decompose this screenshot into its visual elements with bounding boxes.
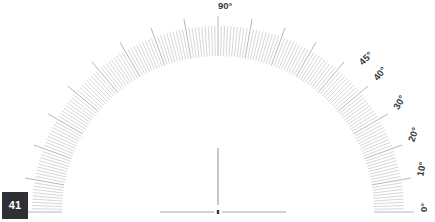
minor-tick <box>32 202 62 204</box>
minor-tick <box>96 72 116 95</box>
minor-tick <box>339 95 362 114</box>
minor-tick <box>78 90 101 110</box>
minor-tick <box>346 105 371 122</box>
major-tick <box>25 178 64 185</box>
minor-tick <box>330 83 352 104</box>
minor-tick <box>101 67 120 90</box>
minor-tick <box>326 78 347 100</box>
minor-tick <box>276 40 287 68</box>
minor-tick <box>36 173 65 179</box>
minor-tick <box>89 78 110 100</box>
minor-tick <box>312 63 330 87</box>
minor-tick <box>332 85 354 105</box>
minor-tick <box>49 133 76 146</box>
minor-tick <box>305 58 322 83</box>
minor-tick <box>80 88 102 108</box>
major-tick <box>92 62 118 93</box>
minor-tick <box>324 76 344 98</box>
minor-tick <box>374 199 404 201</box>
minor-tick <box>38 167 67 174</box>
minor-tick <box>136 45 149 72</box>
major-tick <box>184 19 191 58</box>
minor-tick <box>33 196 63 199</box>
minor-tick <box>226 26 228 56</box>
minor-tick <box>248 29 254 58</box>
minor-tick <box>344 103 368 121</box>
minor-tick <box>361 136 388 148</box>
minor-tick <box>322 74 342 96</box>
major-tick <box>34 145 72 159</box>
minor-tick <box>64 108 89 125</box>
radial-tick-scale-svg: 0°10°20°30°40°45°90° <box>0 0 435 222</box>
minor-tick <box>320 72 340 95</box>
minor-tick <box>69 100 93 118</box>
minor-tick <box>358 130 385 143</box>
minor-tick <box>73 95 96 114</box>
degree-label: 10° <box>414 161 427 177</box>
major-tick <box>365 145 403 159</box>
minor-tick <box>250 30 256 59</box>
degree-label: 40° <box>371 64 389 82</box>
degree-label: 45° <box>357 49 375 67</box>
minor-tick <box>229 26 231 56</box>
minor-tick <box>66 105 91 122</box>
minor-tick <box>373 193 403 196</box>
minor-tick <box>284 43 297 70</box>
major-tick <box>151 28 165 66</box>
minor-tick <box>341 97 365 115</box>
minor-tick <box>109 62 127 86</box>
minor-tick <box>223 26 224 56</box>
minor-tick <box>199 27 202 57</box>
minor-tick <box>145 41 157 69</box>
figure-number-badge: 41 <box>2 192 28 219</box>
minor-tick <box>173 32 180 61</box>
major-tick <box>68 86 99 112</box>
minor-tick <box>279 41 291 69</box>
minor-tick <box>256 32 263 61</box>
minor-tick <box>370 170 399 177</box>
major-tick <box>318 62 344 93</box>
minor-tick <box>371 177 400 183</box>
minor-tick <box>286 45 299 72</box>
minor-tick <box>148 40 159 68</box>
minor-tick <box>32 206 62 207</box>
minor-tick <box>142 42 154 69</box>
minor-tick <box>221 26 222 56</box>
minor-tick <box>139 43 152 70</box>
minor-tick <box>32 209 62 210</box>
minor-tick <box>316 67 335 90</box>
major-tick <box>372 178 411 185</box>
minor-tick <box>212 26 213 56</box>
major-tick <box>338 86 369 112</box>
minor-tick <box>307 60 324 85</box>
center-dot <box>217 210 219 214</box>
minor-tick <box>359 133 386 146</box>
minor-tick <box>68 103 92 121</box>
minor-tick <box>47 139 75 151</box>
minor-tick <box>91 76 111 98</box>
minor-tick <box>71 97 95 115</box>
minor-tick <box>33 193 63 196</box>
minor-tick <box>114 58 131 83</box>
minor-tick <box>363 142 391 153</box>
minor-tick <box>328 80 349 101</box>
minor-tick <box>48 136 75 148</box>
minor-tick <box>234 27 237 57</box>
minor-tick <box>176 31 183 60</box>
minor-tick <box>374 206 404 207</box>
figure-number-text: 41 <box>9 200 22 211</box>
minor-tick <box>281 42 293 69</box>
minor-tick <box>179 30 185 59</box>
degree-label: 30° <box>391 93 408 111</box>
minor-tick <box>94 74 114 96</box>
minor-tick <box>84 83 106 104</box>
minor-tick <box>336 90 359 110</box>
minor-tick <box>111 60 128 85</box>
minor-tick <box>347 108 372 125</box>
degree-label: 20° <box>405 126 420 143</box>
minor-tick <box>373 196 403 199</box>
minor-tick <box>232 27 235 57</box>
minor-tick <box>334 88 356 108</box>
minor-tick <box>343 100 367 118</box>
minor-tick <box>106 63 124 87</box>
